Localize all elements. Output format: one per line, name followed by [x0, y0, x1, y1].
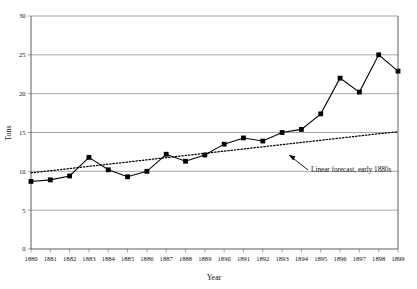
x-tick-label: 1892 — [256, 255, 269, 262]
y-tick-label: 15 — [19, 129, 26, 136]
x-tick-label: 1883 — [82, 255, 96, 262]
data-point-marker — [29, 179, 34, 184]
y-tick-label: 0 — [22, 245, 26, 252]
data-point-marker — [125, 174, 130, 179]
chart-container: 051015202530 188018811882188318841885188… — [0, 0, 417, 289]
x-tick-label: 1896 — [333, 255, 347, 262]
data-point-marker — [67, 174, 72, 179]
x-tick-label: 1880 — [24, 255, 38, 262]
y-tick-label: 10 — [19, 168, 26, 175]
data-point-marker — [338, 76, 343, 81]
x-tick-label: 1897 — [353, 255, 367, 262]
data-point-marker — [376, 52, 381, 57]
data-point-marker — [222, 142, 227, 147]
x-axis-tick-labels: 1880188118821883188418851886188718881889… — [24, 255, 405, 262]
data-point-marker — [280, 130, 285, 135]
line-chart: 051015202530 188018811882188318841885188… — [0, 0, 417, 289]
y-axis-tick-labels: 051015202530 — [19, 12, 26, 252]
y-axis-ticks — [28, 16, 32, 249]
data-point-marker — [357, 90, 362, 95]
data-point-marker — [241, 136, 246, 141]
x-tick-label: 1899 — [391, 255, 405, 262]
data-point-marker — [183, 159, 188, 164]
y-tick-label: 20 — [19, 90, 26, 97]
data-point-marker — [164, 152, 169, 157]
data-point-marker — [396, 69, 401, 74]
y-axis-title: Tons — [4, 125, 13, 140]
annotation-label: Linear forecast, early 1880s — [311, 166, 391, 174]
x-axis-title: Year — [207, 273, 222, 282]
data-point-marker — [87, 155, 92, 160]
data-point-marker — [202, 153, 207, 158]
x-axis-ticks — [31, 249, 398, 253]
x-tick-label: 1891 — [237, 255, 250, 262]
x-tick-label: 1886 — [140, 255, 154, 262]
data-point-marker — [299, 127, 304, 132]
x-tick-label: 1887 — [160, 255, 174, 262]
x-tick-label: 1894 — [295, 255, 309, 262]
y-tick-label: 5 — [22, 207, 26, 214]
top-margin-strip — [0, 0, 417, 9]
x-tick-label: 1893 — [276, 255, 290, 262]
x-tick-label: 1898 — [372, 255, 386, 262]
x-tick-label: 1882 — [63, 255, 76, 262]
data-point-marker — [48, 177, 53, 182]
y-tick-label: 25 — [19, 51, 26, 58]
data-point-marker — [144, 169, 149, 174]
data-point-marker — [106, 167, 111, 172]
x-tick-label: 1890 — [218, 255, 232, 262]
data-point-marker — [318, 111, 323, 116]
y-tick-label: 30 — [19, 12, 26, 19]
x-tick-label: 1889 — [198, 255, 212, 262]
x-tick-label: 1888 — [179, 255, 193, 262]
x-tick-label: 1885 — [121, 255, 135, 262]
x-tick-label: 1884 — [102, 255, 116, 262]
data-point-marker — [260, 139, 265, 144]
x-tick-label: 1895 — [314, 255, 328, 262]
x-tick-label: 1881 — [44, 255, 57, 262]
